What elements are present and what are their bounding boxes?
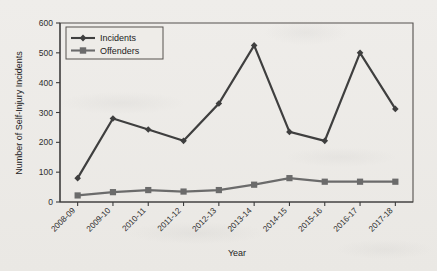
series-offenders <box>75 175 399 199</box>
series-line-offenders <box>78 178 396 195</box>
data-point-marker-square <box>251 182 257 188</box>
data-point-marker-square <box>145 187 151 193</box>
x-tick-label: 2011-12 <box>156 206 183 233</box>
data-point-marker-square <box>357 179 363 185</box>
data-point-marker-square <box>180 188 186 194</box>
x-tick-label: 2014-15 <box>261 206 289 234</box>
y-tick-label: 300 <box>39 108 53 118</box>
x-tick-label: 2009-10 <box>85 206 113 234</box>
y-axis-tick-labels: 0100200300400500600 <box>39 18 53 207</box>
data-point-marker-square <box>322 179 328 185</box>
series-incidents <box>74 42 398 181</box>
data-point-marker-square <box>110 189 116 195</box>
x-tick-label: 2017-18 <box>367 206 395 234</box>
data-point-marker-square <box>75 192 81 198</box>
y-axis-title: Number of Self-Injury Incidents <box>14 51 24 175</box>
data-point-marker-square <box>392 179 398 185</box>
y-tick-label: 600 <box>39 18 53 28</box>
legend-label-offenders: Offenders <box>100 46 140 56</box>
x-tick-label: 2010-11 <box>120 206 147 233</box>
y-tick-label: 200 <box>39 137 53 147</box>
x-axis-tick-labels: 2008-092009-102010-112011-122012-132013-… <box>49 206 395 234</box>
x-tick-label: 2016-17 <box>332 206 360 234</box>
y-tick-label: 100 <box>39 167 53 177</box>
x-axis-title: Year <box>228 248 246 258</box>
chart-legend: Incidents Offenders <box>66 27 163 59</box>
series-line-incidents <box>78 45 396 178</box>
data-point-marker-diamond <box>321 138 328 145</box>
x-axis-ticks <box>78 202 396 206</box>
data-point-marker-square <box>286 175 292 181</box>
data-point-marker-square <box>216 187 222 193</box>
x-tick-label: 2013-14 <box>226 206 254 234</box>
data-point-marker-diamond <box>286 129 293 136</box>
x-tick-label: 2008-09 <box>49 206 77 234</box>
x-tick-label: 2015-16 <box>297 206 325 234</box>
y-tick-label: 400 <box>39 78 53 88</box>
chart-canvas: 0100200300400500600 2008-092009-102010-1… <box>0 0 437 271</box>
data-point-marker-diamond <box>145 126 152 133</box>
x-tick-label: 2012-13 <box>191 206 219 234</box>
y-tick-label: 500 <box>39 48 53 58</box>
y-tick-label: 0 <box>48 197 53 207</box>
legend-label-incidents: Incidents <box>100 33 137 43</box>
legend-marker-offenders-square-icon <box>80 47 86 53</box>
self-injury-incidents-line-chart: 0100200300400500600 2008-092009-102010-1… <box>0 0 437 271</box>
